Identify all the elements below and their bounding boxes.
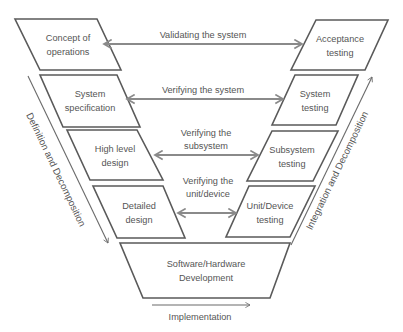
left-box-label: System [75, 89, 106, 99]
arrow-label: subsystem [184, 141, 228, 151]
left-box-detailed-design: Detailed design [93, 186, 185, 238]
right-box-label: Acceptance [316, 34, 364, 44]
right-box-label: testing [256, 215, 283, 225]
arrow-label: Verifying the [181, 128, 232, 138]
right-box-system-testing: System testing [272, 75, 358, 125]
right-box-label: testing [326, 48, 353, 58]
left-box-label: Detailed [122, 201, 156, 211]
arrow-label: Verifying the system [162, 85, 245, 95]
left-box-system-specification: System specification [40, 75, 140, 127]
left-side-label: Definition and Decomposition [24, 111, 88, 228]
right-box-unit-device-testing: Unit/Device testing [226, 186, 315, 237]
bottom-side-label: Implementation [169, 312, 232, 322]
right-box-acceptance-testing: Acceptance testing [291, 20, 388, 70]
left-box-label: Concept of [46, 33, 91, 43]
right-box-label: testing [301, 103, 328, 113]
left-box-label: High level [95, 144, 135, 154]
arrow-label: Verifying the [183, 176, 234, 186]
implementation-indicator: Implementation [152, 305, 250, 322]
left-box-high-level-design: High level design [67, 130, 163, 180]
bottom-box-label: Software/Hardware [167, 259, 246, 269]
right-box-label: System [300, 89, 331, 99]
left-box-label: specification [65, 103, 116, 113]
arrow-verifying-the-subsystem: Verifying the subsystem [155, 128, 258, 155]
right-box-label: Unit/Device [247, 201, 294, 211]
bottom-box-software-hardware-development: Software/Hardware Development [120, 243, 290, 298]
arrow-validating-the-system: Validating the system [104, 30, 302, 44]
right-box-label: testing [278, 159, 305, 169]
arrow-verifying-the-unit-device: Verifying the unit/device [178, 176, 236, 213]
left-box-label: design [101, 158, 128, 168]
arrow-verifying-the-system: Verifying the system [127, 85, 283, 99]
right-box-subsystem-testing: Subsystem testing [247, 131, 338, 181]
bottom-box-label: Development [179, 273, 234, 283]
arrow-label: unit/device [186, 189, 230, 199]
left-box-label: design [125, 215, 152, 225]
arrow-label: Validating the system [160, 30, 247, 40]
right-box-label: Subsystem [269, 145, 315, 155]
left-box-label: operations [47, 47, 90, 57]
v-model-diagram: Concept of operations System specificati… [0, 0, 403, 332]
